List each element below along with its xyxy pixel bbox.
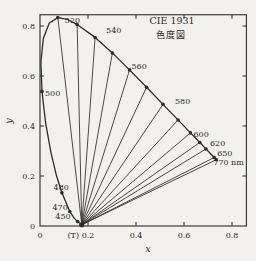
marker-dot-500 [40, 90, 44, 94]
wavelength-fan-lines [58, 18, 216, 225]
wavelength-label-650: 650 [217, 149, 232, 158]
fan-line-550 [82, 53, 113, 225]
plot-frame [40, 15, 246, 226]
fan-line-650 [82, 158, 214, 225]
t-point-label: (T) [67, 231, 79, 240]
cie-1931-figure: 00.20.40.60.800.20.40.60.8 4504704805005… [0, 0, 256, 261]
x-tick-label: 0.6 [178, 231, 191, 240]
wavelength-labels: 450470480500520540560580600620650770 nm [45, 16, 244, 221]
marker-dot-540 [93, 36, 97, 40]
fan-line-600 [82, 133, 191, 225]
marker-dot-450 [76, 220, 80, 224]
fan-line-770 [82, 160, 217, 225]
marker-dot-520 [56, 16, 60, 20]
wavelength-label-580: 580 [175, 97, 190, 106]
x-axis-title: x [145, 243, 151, 254]
y-tick-label: 0.2 [22, 172, 35, 181]
marker-dot-550 [111, 51, 115, 55]
spectral-locus-path [41, 18, 216, 225]
wavelength-label-520: 520 [65, 16, 80, 25]
marker-dot-610 [198, 141, 202, 145]
marker-dot-570 [145, 86, 149, 90]
x-tick-label: 0 [37, 231, 42, 240]
y-tick-label: 0.6 [22, 72, 35, 81]
figure-title: CIE 1931 [149, 15, 194, 26]
x-tick-label: 0.2 [82, 231, 95, 240]
y-tick-label: 0.4 [22, 122, 35, 131]
wavelength-label-540: 540 [106, 26, 121, 35]
wavelength-label-620: 620 [210, 139, 225, 148]
fan-line-610 [82, 143, 200, 225]
fan-line-530 [77, 25, 82, 225]
wavelength-label-450: 450 [55, 212, 70, 221]
marker-dot-600 [189, 131, 193, 135]
wavelength-label-470: 470 [53, 203, 68, 212]
fan-line-570 [82, 87, 147, 224]
marker-dot-590 [176, 118, 180, 122]
figure-subtitle: 色度図 [156, 29, 186, 40]
wavelength-label-600: 600 [194, 130, 209, 139]
x-tick-label: 0.4 [130, 231, 143, 240]
plot-border [40, 15, 246, 226]
axis-ticks [40, 15, 246, 226]
wavelength-label-500: 500 [45, 89, 60, 98]
wavelength-label-770: 770 nm [213, 158, 244, 167]
fan-line-590 [82, 120, 178, 225]
y-axis-title: y [3, 118, 14, 125]
marker-dot-580 [161, 103, 165, 107]
wavelength-label-560: 560 [132, 62, 147, 71]
fan-line-540 [82, 37, 95, 224]
y-tick-label: 0 [30, 222, 35, 231]
marker-dot-620 [204, 147, 208, 151]
y-tick-label: 0.8 [22, 22, 35, 31]
x-tick-label: 0.8 [226, 231, 239, 240]
cie-1931-chromaticity-diagram: 00.20.40.60.800.20.40.60.8 4504704805005… [0, 0, 256, 261]
t-point-dot [79, 222, 84, 227]
wavelength-label-480: 480 [54, 183, 69, 192]
fan-line-580 [82, 104, 163, 224]
fan-line-620 [82, 149, 206, 225]
spectral-locus-curve [41, 18, 216, 225]
